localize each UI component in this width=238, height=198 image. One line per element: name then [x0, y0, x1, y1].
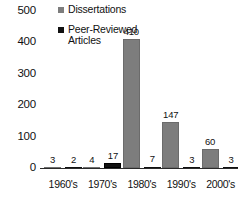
bar-articles[interactable] — [104, 163, 121, 168]
bar-group: 6032000's — [202, 0, 238, 168]
bar-value-label: 3 — [50, 155, 55, 165]
bar-value-label: 7 — [150, 154, 155, 164]
x-axis-line — [40, 168, 238, 169]
y-axis-tick-500: 500 — [2, 5, 36, 17]
bar-value-label: 60 — [205, 137, 215, 147]
x-axis-category-label: 1980's — [127, 179, 156, 190]
legend-item[interactable]: Dissertations — [58, 4, 178, 16]
legend-item-label: Dissertations — [68, 4, 126, 16]
bar-articles[interactable] — [223, 167, 238, 168]
x-axis-category-label: 1970's — [88, 179, 117, 190]
legend-item-label: Peer-Reviewed Articles — [68, 24, 160, 47]
bar-dissertations[interactable] — [44, 167, 61, 168]
bar-articles[interactable] — [183, 167, 200, 168]
y-axis-tick-400: 400 — [2, 36, 36, 48]
bar-dissertations[interactable] — [202, 149, 219, 168]
x-axis-category-label: 1990's — [167, 179, 196, 190]
y-axis: 5004003002001000 — [0, 0, 36, 198]
bar-dissertations[interactable] — [83, 167, 100, 168]
bar-value-label: 147 — [163, 110, 178, 120]
y-axis-tick-100: 100 — [2, 131, 36, 143]
bar-value-label: 3 — [229, 155, 234, 165]
y-axis-tick-300: 300 — [2, 68, 36, 80]
legend-item[interactable]: Peer-Reviewed Articles — [58, 24, 178, 47]
bar-articles[interactable] — [65, 167, 82, 168]
x-axis-category-label: 2000's — [206, 179, 235, 190]
legend: DissertationsPeer-Reviewed Articles — [58, 4, 178, 55]
y-axis-tick-200: 200 — [2, 99, 36, 111]
bar-value-label: 17 — [108, 151, 118, 161]
bar-value-label: 3 — [189, 155, 194, 165]
bar-articles[interactable] — [144, 167, 161, 168]
bar-dissertations[interactable] — [162, 122, 179, 168]
bar-value-label: 2 — [71, 155, 76, 165]
y-axis-tick-0: 0 — [2, 162, 36, 174]
x-axis-category-label: 1960's — [49, 179, 78, 190]
bar-chart: 5004003002001000 321960's4171970's410719… — [0, 0, 238, 198]
bar-value-label: 4 — [89, 155, 94, 165]
bar-dissertations[interactable] — [123, 39, 140, 168]
articles-swatch-icon — [58, 27, 64, 33]
dissertations-swatch-icon — [58, 7, 64, 13]
